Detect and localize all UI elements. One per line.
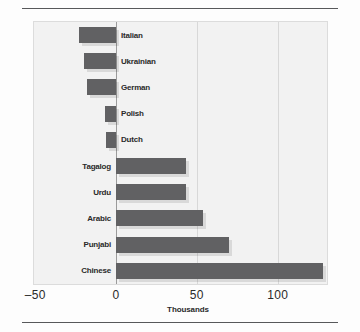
bar-row: Arabic [34, 205, 327, 231]
bar-label-dutch: Dutch [121, 133, 143, 146]
bar-arabic[interactable] [116, 210, 203, 226]
bar-punjabi[interactable] [116, 237, 229, 253]
bottom-rule [22, 322, 338, 323]
bar-chinese[interactable] [116, 263, 323, 279]
x-tick-100: 100 [267, 288, 288, 302]
bar-row: Punjabi [34, 232, 327, 258]
bar-tagalog[interactable] [116, 158, 186, 174]
bar-label-german: German [121, 81, 150, 94]
bar-row: Chinese [34, 258, 327, 284]
x-tick-50: 50 [190, 288, 204, 302]
plot-inner: ItalianUkrainianGermanPolishDutchTagalog… [34, 22, 327, 284]
bar-row: Ukrainian [34, 48, 327, 74]
bar-row: Tagalog [34, 153, 327, 179]
bar-row: German [34, 74, 327, 100]
bar-row: Polish [34, 101, 327, 127]
x-axis-title: Thousands [0, 305, 360, 314]
bar-urdu[interactable] [116, 184, 186, 200]
bar-label-ukrainian: Ukrainian [121, 55, 156, 68]
x-tick--50: –50 [25, 288, 46, 302]
bar-label-arabic: Arabic [87, 212, 111, 225]
bar-label-tagalog: Tagalog [82, 160, 111, 173]
bar-label-polish: Polish [121, 107, 144, 120]
x-tick-0: 0 [113, 288, 120, 302]
bar-row: Dutch [34, 127, 327, 153]
bar-ukrainian[interactable] [84, 53, 116, 69]
chart-title-sliver [0, 0, 360, 4]
bar-italian[interactable] [79, 27, 116, 43]
top-rule [22, 8, 338, 9]
bar-dutch[interactable] [106, 132, 116, 148]
bar-label-chinese: Chinese [81, 264, 111, 277]
plot-area: ItalianUkrainianGermanPolishDutchTagalog… [33, 21, 328, 285]
bar-polish[interactable] [105, 106, 116, 122]
chart-page: ItalianUkrainianGermanPolishDutchTagalog… [0, 0, 360, 332]
bar-german[interactable] [87, 79, 116, 95]
bar-row: Italian [34, 22, 327, 48]
bar-label-punjabi: Punjabi [84, 238, 112, 251]
x-axis-title-text: Thousands [167, 305, 209, 314]
bar-row: Urdu [34, 179, 327, 205]
bar-label-urdu: Urdu [93, 186, 111, 199]
bar-label-italian: Italian [121, 29, 143, 42]
x-axis-tick-labels: –50050100 [33, 288, 328, 304]
